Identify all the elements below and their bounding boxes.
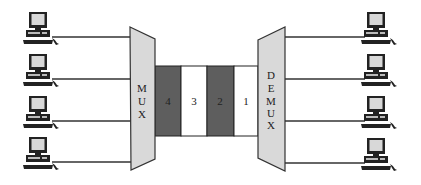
mux-letter: M — [137, 82, 147, 94]
demux-block: D E M U X — [258, 27, 285, 171]
demux-letter: U — [267, 107, 275, 119]
computer-icon — [23, 96, 59, 129]
channel: 4 3 2 1 — [155, 66, 258, 136]
mux-block: M U X — [130, 27, 155, 170]
demux-letter: E — [268, 82, 275, 94]
demux-letter: D — [267, 69, 275, 81]
slot-label-1: 1 — [243, 95, 249, 107]
computer-icon — [361, 138, 397, 171]
computer-icon — [23, 54, 59, 87]
tdm-diagram: 4 3 2 1 M U X D E M U X — [0, 0, 421, 185]
mux-letter: U — [138, 95, 146, 107]
computer-icon — [361, 54, 397, 87]
slot-label-3: 3 — [191, 95, 197, 107]
computer-icon — [361, 12, 397, 45]
right-stations — [285, 12, 397, 171]
computer-icon — [23, 137, 59, 170]
slot-label-2: 2 — [217, 95, 223, 107]
demux-letter: M — [266, 95, 276, 107]
slot-label-4: 4 — [165, 95, 171, 107]
mux-letter: X — [138, 108, 146, 120]
computer-icon — [361, 96, 397, 129]
demux-letter: X — [267, 119, 275, 131]
computer-icon — [23, 12, 59, 45]
left-stations — [23, 12, 131, 170]
